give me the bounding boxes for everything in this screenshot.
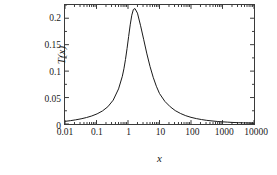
minor-ticks [65,5,254,124]
x-tick-label: 1 [126,127,131,137]
x-tick-label: 10000 [244,127,268,137]
x-tick-label: 100 [185,127,199,137]
chart-figure: T(x) 00.050.10.150.2 0.010.1110100100010… [0,0,277,175]
x-tick-label: 10 [156,127,166,137]
data-curve-T-of-x [65,9,254,124]
plot-curve-svg [65,5,254,124]
x-tick-label: 1000 [215,127,234,137]
y-tick-label: 0.05 [44,94,61,104]
y-axis-title: T(x) [55,15,67,95]
x-tick-label: 0.01 [57,127,74,137]
plot-area: T(x) 00.050.10.150.2 0.010.1110100100010… [64,4,255,125]
x-axis-title: x [64,152,255,164]
x-tick-label: 0.1 [91,127,103,137]
y-tick-label: 0.1 [49,67,61,77]
major-ticks [65,5,254,124]
y-tick-label: 0.15 [44,40,61,50]
y-tick-label: 0.2 [49,13,61,23]
